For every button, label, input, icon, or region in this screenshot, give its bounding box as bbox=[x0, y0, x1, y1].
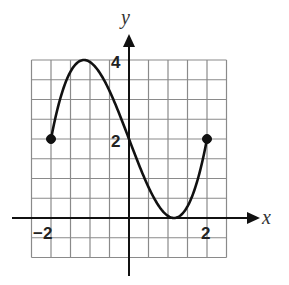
x-axis-arrow-icon bbox=[247, 212, 260, 224]
y-axis-arrow-icon bbox=[123, 34, 135, 47]
endpoint-dot bbox=[47, 135, 56, 144]
x-axis-label: x bbox=[261, 206, 271, 228]
tick-label-x-2: 2 bbox=[201, 224, 210, 243]
tick-label-y4: 4 bbox=[111, 53, 121, 72]
function-graph: y x 4 2 −2 2 bbox=[0, 0, 289, 285]
tick-label-x-neg2: −2 bbox=[33, 224, 52, 243]
y-axis-label: y bbox=[119, 6, 130, 29]
endpoint-dot bbox=[203, 135, 212, 144]
tick-label-y2: 2 bbox=[111, 132, 120, 151]
